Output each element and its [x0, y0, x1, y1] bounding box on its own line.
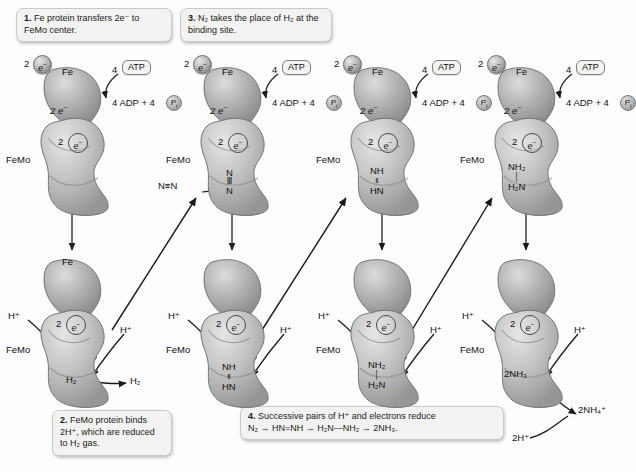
proton-left-3: H⁺	[318, 310, 330, 321]
caption-2-number: 2.	[60, 415, 68, 425]
atp-count-1: 4	[112, 64, 117, 75]
electron-count-femo-4: 2	[512, 136, 517, 147]
electron-circle-b1: e−	[66, 315, 86, 335]
atp-box-4: ATP	[576, 60, 605, 75]
electron-inline-3: 2 e−	[360, 104, 377, 116]
electron-circle-b3: e−	[376, 315, 396, 335]
caption-3-text: N₂ takes the place of H₂ at the binding …	[188, 13, 319, 35]
femo-label-3: FeMo	[316, 154, 340, 165]
electron-count-femo-2: 2	[218, 136, 223, 147]
electron-count-b4: 2	[510, 318, 515, 329]
caption-3: 3. N₂ takes the place of H₂ at the bindi…	[180, 8, 332, 42]
n2-incoming-label: N≡N	[158, 180, 177, 191]
product-b3: NH₂ │ H₂N	[368, 360, 385, 390]
femo-label-b4: FeMo	[460, 344, 484, 355]
release-b4: 2NH₄⁺	[578, 404, 606, 415]
electron-sphere-4: e−	[487, 55, 506, 74]
electron-circle-b2: e−	[226, 315, 246, 335]
femo-label-b1: FeMo	[6, 344, 30, 355]
electron-circle-3: e−	[378, 133, 398, 153]
electron-count-3: 2	[334, 58, 339, 69]
product-b2: NH ‖ HN	[222, 362, 236, 392]
atp-count-2: 4	[272, 64, 277, 75]
atp-box-2: ATP	[282, 60, 311, 75]
adp-label-2: 4 ADP + 4	[272, 97, 315, 108]
electron-count-b1: 2	[56, 318, 61, 329]
electron-count-4: 2	[478, 58, 483, 69]
electron-sphere-1: e−	[33, 55, 52, 74]
electron-circle-2: e−	[228, 133, 248, 153]
electron-circle-b4: e−	[520, 315, 540, 335]
caption-1-number: 1.	[24, 13, 32, 23]
caption-1: 1. Fe protein transfers 2e⁻ to FeMo cent…	[16, 8, 172, 42]
caption-3-number: 3.	[188, 13, 196, 23]
proton-right-1: H⁺	[120, 324, 132, 335]
substrate-top-3: NH ‖ HN	[370, 166, 384, 196]
adp-label-1: 4 ADP + 4	[112, 97, 155, 108]
electron-sphere-3: e−	[343, 55, 362, 74]
fe-label-b1: Fe	[62, 256, 73, 267]
proton-right-3: H⁺	[430, 324, 442, 335]
product-b4: 2NH₃	[504, 368, 527, 379]
electron-sphere-2: e−	[193, 55, 212, 74]
phosphate-icon-4: Pi	[620, 95, 636, 111]
electron-circle-1: e−	[68, 133, 88, 153]
extra-proton-b4: 2H⁺	[512, 432, 529, 443]
femo-label-b2: FeMo	[166, 344, 190, 355]
electron-count-b2: 2	[216, 318, 221, 329]
caption-2: 2. FeMo protein binds 2H⁺, which are red…	[52, 410, 172, 456]
product-b1: H₂	[66, 374, 77, 385]
caption-4-line2: N₂ → HN=NH → H₂N—NH₂ → 2NH₃.	[248, 423, 496, 435]
femo-label-2: FeMo	[166, 154, 190, 165]
proton-left-2: H⁺	[168, 310, 180, 321]
proton-left-1: H⁺	[8, 310, 20, 321]
caption-4-line1: 4. Successive pairs of H⁺ and electrons …	[248, 411, 496, 423]
proton-left-4: H⁺	[462, 310, 474, 321]
atp-count-4: 4	[566, 64, 571, 75]
adp-label-4: 4 ADP + 4	[566, 97, 609, 108]
fe-label-4: Fe	[516, 66, 527, 77]
atp-box-3: ATP	[432, 60, 461, 75]
fe-label-3: Fe	[372, 66, 383, 77]
atp-count-3: 4	[422, 64, 427, 75]
electron-count-femo-3: 2	[368, 136, 373, 147]
fe-label-1: Fe	[62, 66, 73, 77]
electron-count-b3: 2	[366, 318, 371, 329]
adp-label-3: 4 ADP + 4	[422, 97, 465, 108]
electron-count-2: 2	[184, 58, 189, 69]
proton-right-2: H⁺	[280, 324, 292, 335]
electron-count-femo-1: 2	[58, 136, 63, 147]
electron-circle-4: e−	[522, 133, 542, 153]
substrate-top-2: N Ⅲ N	[226, 168, 233, 195]
femo-label-b3: FeMo	[316, 344, 340, 355]
femo-label-1: FeMo	[6, 154, 30, 165]
figure-canvas: 1. Fe protein transfers 2e⁻ to FeMo cent…	[0, 0, 636, 472]
release-b1: H₂	[130, 375, 141, 386]
atp-box-1: ATP	[122, 60, 151, 75]
fe-label-2: Fe	[222, 66, 233, 77]
electron-inline-2: 2 e−	[210, 104, 227, 116]
femo-label-4: FeMo	[460, 154, 484, 165]
caption-1-text: Fe protein transfers 2e⁻ to FeMo center.	[24, 13, 139, 35]
electron-count-1: 2	[24, 58, 29, 69]
electron-inline-4: 2 e−	[504, 104, 521, 116]
proton-right-4: H⁺	[574, 324, 586, 335]
substrate-top-4: NH₂ │ H₂N	[508, 162, 525, 192]
caption-2-text: FeMo protein binds 2H⁺, which are reduce…	[60, 415, 155, 448]
caption-4: 4. Successive pairs of H⁺ and electrons …	[240, 406, 504, 440]
electron-inline-1: 2 e−	[50, 104, 67, 116]
